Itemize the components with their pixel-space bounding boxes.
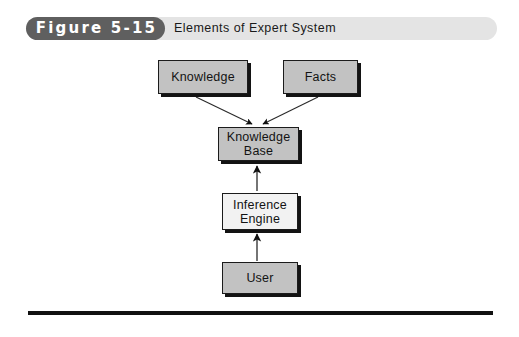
node-knowledge-base-line2: Base — [244, 144, 273, 158]
node-inference-engine-line1: Inference — [233, 198, 287, 212]
node-knowledge: Knowledge — [158, 60, 248, 94]
node-knowledge-base: Knowledge Base — [218, 127, 299, 161]
bottom-rule — [28, 311, 493, 315]
node-facts-label: Facts — [302, 70, 340, 84]
node-knowledge-base-line1: Knowledge — [227, 130, 291, 144]
node-inference-engine-label: Inference Engine — [230, 198, 290, 226]
node-knowledge-base-label: Knowledge Base — [224, 130, 294, 158]
node-knowledge-label: Knowledge — [168, 70, 238, 84]
node-user-label: User — [243, 271, 276, 285]
node-inference-engine-line2: Engine — [240, 212, 280, 226]
node-user: User — [222, 262, 298, 294]
edge-facts-to-knowledge-base — [263, 97, 318, 124]
figure-page: Figure 5-15 Elements of Expert System Kn… — [0, 0, 519, 337]
edge-knowledge-to-knowledge-base — [196, 97, 252, 124]
node-facts: Facts — [283, 60, 358, 94]
node-inference-engine: Inference Engine — [222, 193, 298, 230]
